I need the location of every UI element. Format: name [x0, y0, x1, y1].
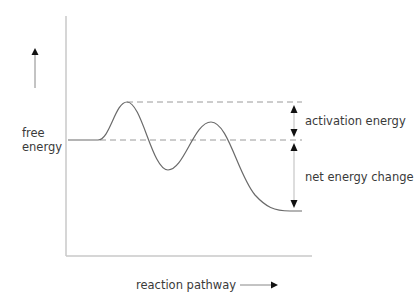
x-axis-label: reaction pathway	[136, 278, 236, 292]
arrowhead-right-icon	[271, 282, 278, 289]
arrowhead-up-icon	[291, 143, 298, 151]
activation-energy-label: activation energy	[305, 114, 406, 128]
y-axis-label-line1: free	[22, 126, 62, 140]
net-energy-change-label: net energy change	[305, 170, 414, 184]
arrowhead-up-icon	[291, 105, 298, 113]
arrowhead-up-icon	[32, 48, 39, 55]
y-axis-label-line2: energy	[22, 140, 62, 154]
energy-diagram	[0, 0, 419, 295]
arrowhead-down-icon	[291, 129, 298, 137]
arrowhead-down-icon	[291, 200, 298, 208]
y-axis-label: free energy	[22, 126, 62, 154]
energy-curve	[68, 102, 302, 211]
